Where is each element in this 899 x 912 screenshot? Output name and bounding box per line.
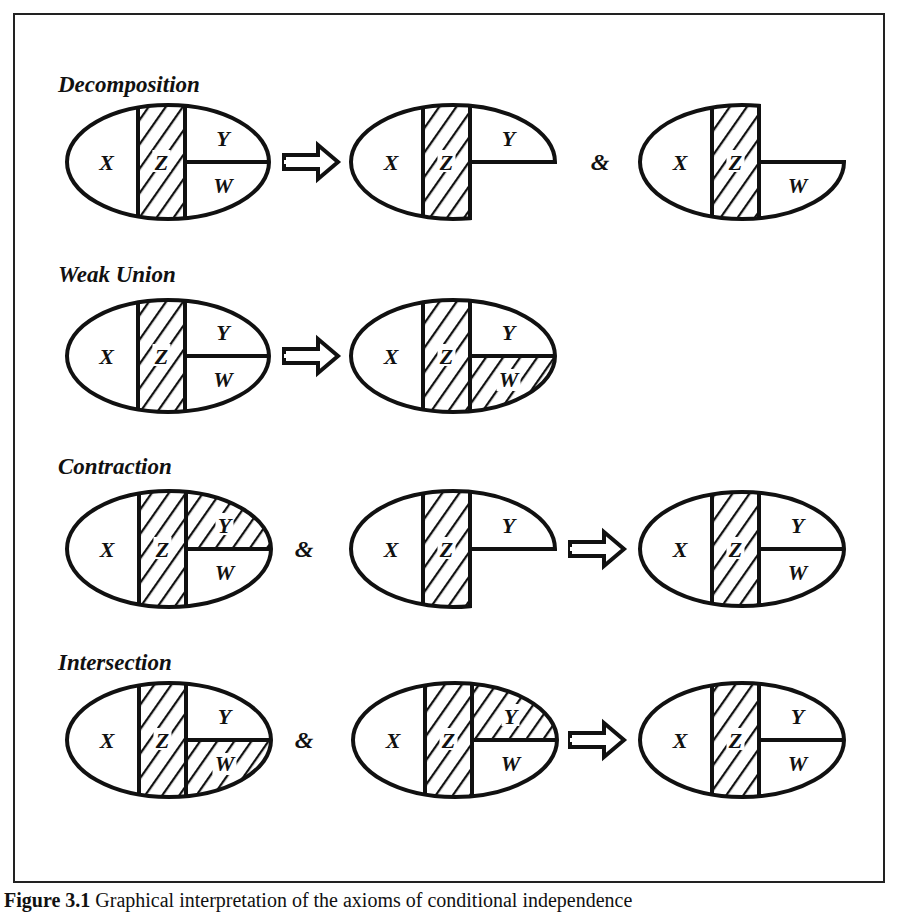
region-label-z: Z (728, 537, 742, 562)
implies-arrow-icon (570, 723, 624, 757)
ellipse-diagram: XZYW (67, 489, 273, 609)
region-label-w: W (501, 751, 522, 776)
region-label-w: W (215, 560, 236, 585)
region-label-z: Z (439, 344, 453, 369)
ellipse-diagram: XZYW (640, 490, 844, 608)
region-label-w: W (788, 560, 809, 585)
region-label-x: X (99, 537, 116, 562)
region-label-x: X (672, 537, 689, 562)
region-label-w: W (499, 367, 520, 392)
ellipse-diagram: XZYW (67, 298, 269, 414)
region-label-w: W (788, 751, 809, 776)
and-symbol: & (591, 149, 610, 175)
and-symbol: & (295, 536, 314, 562)
and-symbol: & (295, 727, 314, 753)
and-text: & (295, 727, 314, 753)
implies-arrow-icon (284, 339, 338, 373)
region-label-x: X (672, 150, 689, 175)
axiom-row-intersection: XZYW&XZYWXZYW (67, 681, 844, 799)
region-label-w: W (213, 173, 234, 198)
region-label-x: X (98, 344, 115, 369)
ellipse-diagram: XZYW (351, 298, 557, 414)
axiom-row-weak-union: XZYWXZYW (67, 298, 557, 414)
region-label-x: X (385, 728, 402, 753)
implies-arrow-icon (570, 532, 624, 566)
region-label-x: X (383, 537, 400, 562)
region-label-z: Z (728, 150, 742, 175)
region-label-x: X (98, 150, 115, 175)
region-label-x: X (99, 728, 116, 753)
region-label-x: X (383, 344, 400, 369)
region-label-x: X (672, 728, 689, 753)
ellipse-diagram: XZYW (67, 103, 269, 221)
ellipse-diagram: XZW (640, 103, 844, 221)
and-text: & (591, 149, 610, 175)
region-label-z: Z (154, 150, 168, 175)
axiom-row-decomposition: XZYWXZY&XZW (67, 103, 844, 221)
region-label-z: Z (155, 728, 169, 753)
ellipse-diagram: XZYW (353, 681, 559, 799)
region-label-x: X (383, 150, 400, 175)
ellipse-diagram: XZYW (67, 681, 273, 799)
implies-arrow-icon (284, 145, 338, 179)
figure-caption: Figure 3.1 Graphical interpretation of t… (4, 889, 632, 912)
region-label-z: Z (155, 537, 169, 562)
region-label-w: W (213, 367, 234, 392)
and-text: & (295, 536, 314, 562)
ellipse-diagram: XZY (351, 103, 555, 221)
ellipse-diagram: XZY (351, 489, 555, 609)
region-label-z: Z (439, 150, 453, 175)
region-label-w: W (788, 173, 809, 198)
caption-number: Figure 3.1 (4, 889, 90, 911)
region-label-z: Z (441, 728, 455, 753)
caption-text: Graphical interpretation of the axioms o… (95, 889, 632, 911)
region-label-w: W (215, 751, 236, 776)
ellipse-diagram: XZYW (640, 681, 844, 799)
region-label-z: Z (154, 344, 168, 369)
region-label-z: Z (439, 537, 453, 562)
axiom-row-contraction: XZYW&XZYXZYW (67, 489, 844, 609)
region-label-z: Z (728, 728, 742, 753)
